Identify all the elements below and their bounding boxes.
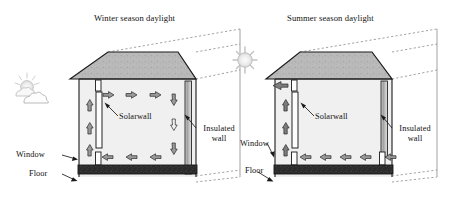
summer-roof bbox=[266, 52, 392, 79]
winter-insulated-wall-label: Insulated wall bbox=[197, 124, 241, 143]
winter-lower-vent bbox=[96, 152, 102, 165]
summer-panel bbox=[233, 29, 437, 182]
winter-floor-label: Floor bbox=[29, 169, 47, 179]
summer-insulated-wall-label: Insulated wall bbox=[393, 124, 437, 143]
summer-window-arrowhead bbox=[270, 151, 275, 157]
winter-insulated-wall-label-line2: wall bbox=[212, 134, 227, 143]
winter-solarwall-label: Solarwall bbox=[119, 112, 152, 122]
diagram-canvas: Winter season daylight Solarwall Insulat… bbox=[0, 0, 455, 198]
winter-upper-vent bbox=[96, 80, 102, 91]
diagram-svg bbox=[0, 0, 455, 198]
summer-floor-label: Floor bbox=[245, 166, 263, 176]
winter-title: Winter season daylight bbox=[94, 14, 175, 24]
summer-right-vent bbox=[380, 152, 386, 165]
winter-floor-arrowhead bbox=[71, 177, 78, 181]
winter-roof bbox=[70, 52, 196, 79]
winter-floor-slab bbox=[78, 165, 197, 174]
winter-panel bbox=[15, 29, 240, 182]
winter-window-label: Window bbox=[16, 150, 45, 160]
summer-insulated-wall-label-line1: Insulated bbox=[399, 124, 430, 133]
summer-lower-vent bbox=[292, 152, 298, 165]
winter-solarwall bbox=[96, 92, 102, 148]
summer-solarwall bbox=[292, 92, 298, 148]
summer-upper-vent bbox=[292, 80, 298, 91]
winter-window-arrowhead bbox=[72, 157, 78, 161]
summer-window-label: Window bbox=[240, 139, 269, 149]
winter-insulated-wall-label-line1: Insulated bbox=[203, 124, 234, 133]
winter-insulated-wall bbox=[185, 81, 192, 174]
summer-title: Summer season daylight bbox=[287, 14, 374, 24]
sun-behind-cloud-icon bbox=[15, 73, 48, 103]
summer-insulated-wall-label-line2: wall bbox=[408, 134, 423, 143]
summer-floor-slab bbox=[274, 165, 393, 174]
bright-sun-icon bbox=[233, 47, 257, 73]
summer-solarwall-label: Solarwall bbox=[315, 112, 348, 122]
